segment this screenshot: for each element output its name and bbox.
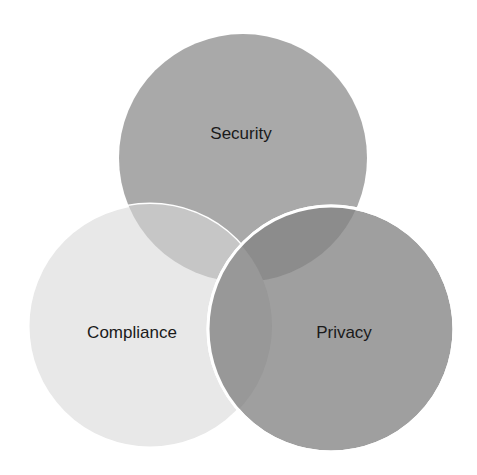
compliance-label: Compliance — [87, 323, 177, 343]
privacy-label: Privacy — [316, 323, 372, 343]
venn-diagram — [0, 0, 477, 475]
security-label: Security — [210, 124, 271, 144]
